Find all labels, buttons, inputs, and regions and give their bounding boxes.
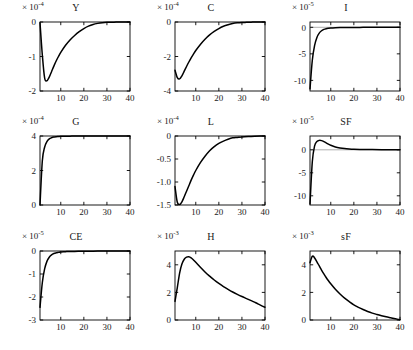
x-tick-label: 30 <box>372 322 382 332</box>
data-series-line <box>40 136 130 205</box>
y-tick-label: 2 <box>167 288 172 298</box>
x-tick-label: 40 <box>396 207 406 217</box>
x-tick-label: 20 <box>79 93 89 103</box>
chart-panel-ce: × 10-5CE102030400-1-2-3 <box>0 229 136 341</box>
y-tick-label: -1.0 <box>157 177 172 187</box>
chart-panel-i: × 10-5I102030400-5-10 <box>270 0 406 112</box>
x-tick-label: 10 <box>56 322 66 332</box>
plot-area: 102030400-2-4 <box>135 0 271 112</box>
x-tick-label: 20 <box>349 93 359 103</box>
y-tick-label: -0.5 <box>157 154 172 164</box>
x-tick-label: 30 <box>372 207 382 217</box>
axis-frame <box>40 251 130 320</box>
data-series-line <box>40 22 130 81</box>
x-tick-label: 40 <box>126 322 136 332</box>
x-tick-label: 30 <box>102 322 112 332</box>
x-tick-label: 10 <box>326 93 336 103</box>
data-series-line <box>175 22 265 79</box>
axis-frame <box>310 251 400 320</box>
x-tick-label: 40 <box>396 93 406 103</box>
y-tick-label: 2 <box>302 288 307 298</box>
x-tick-label: 20 <box>349 207 359 217</box>
x-tick-label: 20 <box>349 322 359 332</box>
y-tick-label: 0 <box>32 200 37 210</box>
y-tick-label: 0 <box>167 315 172 325</box>
x-tick-label: 40 <box>261 207 271 217</box>
chart-panel-c: × 10-4C102030400-2-4 <box>135 0 271 112</box>
y-tick-label: -5 <box>299 49 307 59</box>
y-tick-label: -2 <box>164 52 172 62</box>
axis-frame <box>40 136 130 205</box>
y-tick-label: 0 <box>302 145 307 155</box>
y-tick-label: -10 <box>294 191 306 201</box>
plot-area: 102030400-1-2-3 <box>0 229 136 341</box>
plot-area: 10203040420 <box>270 229 406 341</box>
x-tick-label: 10 <box>191 322 201 332</box>
plot-area: 10203040420 <box>0 114 136 226</box>
x-tick-label: 20 <box>79 207 89 217</box>
x-tick-label: 30 <box>102 93 112 103</box>
y-tick-label: -1 <box>29 52 37 62</box>
x-tick-label: 10 <box>191 93 201 103</box>
x-tick-label: 40 <box>126 207 136 217</box>
x-tick-label: 30 <box>237 322 247 332</box>
y-tick-label: -3 <box>29 315 37 325</box>
data-series-line <box>175 257 265 308</box>
y-tick-label: 0 <box>32 17 37 27</box>
x-tick-label: 10 <box>56 93 66 103</box>
y-tick-label: -4 <box>164 86 172 96</box>
chart-panel-y: × 10-4Y102030400-1-2 <box>0 0 136 112</box>
axis-frame <box>175 251 265 320</box>
data-series-line <box>175 136 265 205</box>
y-tick-label: -2 <box>29 86 37 96</box>
chart-panel-g: × 10-4G10203040420 <box>0 114 136 226</box>
y-tick-label: -10 <box>294 76 306 86</box>
plot-area: 102030400-0.5-1.0-1.5 <box>135 114 271 226</box>
axis-frame <box>310 136 400 205</box>
axis-frame <box>175 136 265 205</box>
x-tick-label: 30 <box>372 93 382 103</box>
x-tick-label: 10 <box>326 322 336 332</box>
axis-frame <box>40 22 130 91</box>
chart-panel-sf: × 10-3sF10203040420 <box>270 229 406 341</box>
y-tick-label: -1.5 <box>157 200 172 210</box>
data-series-line <box>40 251 130 307</box>
impulse-response-figure: × 10-4Y102030400-1-2× 10-4C102030400-2-4… <box>0 0 413 350</box>
chart-panel-h: × 10-3H10203040420 <box>135 229 271 341</box>
y-tick-label: 0 <box>302 23 307 33</box>
x-tick-label: 40 <box>126 93 136 103</box>
x-tick-label: 40 <box>261 93 271 103</box>
plot-area: 102030400-5-10 <box>270 0 406 112</box>
y-tick-label: -5 <box>299 168 307 178</box>
chart-panel-sf: × 10-5SF102030400-5-10 <box>270 114 406 226</box>
y-tick-label: 0 <box>302 315 307 325</box>
y-tick-label: 0 <box>32 246 37 256</box>
y-tick-label: 4 <box>302 260 307 270</box>
x-tick-label: 10 <box>326 207 336 217</box>
x-tick-label: 40 <box>396 322 406 332</box>
chart-panel-l: × 10-4L102030400-0.5-1.0-1.5 <box>135 114 271 226</box>
x-tick-label: 30 <box>102 207 112 217</box>
plot-area: 102030400-1-2 <box>0 0 136 112</box>
y-tick-label: 0 <box>167 131 172 141</box>
y-tick-label: 0 <box>167 17 172 27</box>
y-tick-label: -1 <box>29 269 37 279</box>
axis-frame <box>310 22 400 91</box>
x-tick-label: 20 <box>214 93 224 103</box>
y-tick-label: -2 <box>29 292 37 302</box>
x-tick-label: 40 <box>261 322 271 332</box>
plot-area: 102030400-5-10 <box>270 114 406 226</box>
x-tick-label: 10 <box>191 207 201 217</box>
y-tick-label: 4 <box>32 131 37 141</box>
x-tick-label: 30 <box>237 93 247 103</box>
x-tick-label: 20 <box>79 322 89 332</box>
x-tick-label: 30 <box>237 207 247 217</box>
axis-frame <box>175 22 265 91</box>
y-tick-label: 4 <box>167 260 172 270</box>
x-tick-label: 20 <box>214 207 224 217</box>
data-series-line <box>310 27 400 89</box>
x-tick-label: 10 <box>56 207 66 217</box>
y-tick-label: 2 <box>32 166 37 176</box>
plot-area: 10203040420 <box>135 229 271 341</box>
data-series-line <box>310 256 400 320</box>
